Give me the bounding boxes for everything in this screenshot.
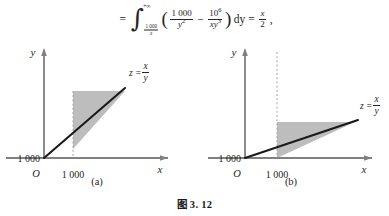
integral-upper-limit: +∞ bbox=[143, 2, 151, 8]
curve-label-a: z = x y bbox=[129, 62, 150, 84]
close-paren: ) bbox=[225, 11, 231, 27]
shaded-region-b bbox=[277, 122, 355, 158]
differential-text: dy bbox=[234, 13, 246, 25]
open-paren: ( bbox=[162, 11, 168, 27]
curve-label-lhs-a: z = bbox=[129, 68, 141, 78]
trailing-comma: , bbox=[270, 13, 273, 25]
chart-panel-b: 1 000 1 000 O y x z = x y bbox=[194, 36, 388, 196]
term1-denominator: y2 bbox=[177, 20, 186, 29]
panel-label-b: (b) bbox=[194, 176, 388, 187]
x-axis-arrow-a bbox=[160, 155, 168, 161]
integral-lower-limit: 1 000 x bbox=[143, 23, 160, 36]
curve-label-num-a: x bbox=[142, 62, 148, 72]
chart-panel-a: 1 000 1 000 O y x z = x y bbox=[0, 36, 194, 196]
y-axis-arrow-a bbox=[41, 48, 47, 56]
term1-den-exponent: 2 bbox=[182, 17, 185, 24]
leading-equals: = bbox=[119, 13, 126, 25]
x-axis-arrow-b bbox=[364, 155, 372, 161]
y-axis-arrow-b bbox=[242, 48, 248, 56]
curve-label-den-a: y bbox=[142, 74, 148, 84]
curve-label-num-b: x bbox=[373, 95, 379, 105]
result-numerator: x bbox=[259, 9, 265, 18]
minus-sign: − bbox=[197, 13, 204, 25]
y-axis-label-a: y bbox=[30, 46, 36, 58]
figure-caption: 图 3. 12 bbox=[0, 196, 389, 211]
x-axis-label-a: x bbox=[157, 163, 163, 175]
shaded-region-a bbox=[73, 91, 125, 149]
integrand-term-2: 106 xy3 bbox=[208, 9, 222, 30]
x-axis-label-b: x bbox=[361, 163, 367, 175]
term2-den-exponent: 3 bbox=[218, 17, 221, 24]
curve-label-den-b: y bbox=[373, 107, 379, 117]
panel-label-a: (a) bbox=[0, 176, 194, 187]
result-equals: = bbox=[248, 13, 255, 25]
result-fraction: x 2 bbox=[259, 9, 266, 30]
integral-limits: +∞ 1 000 x bbox=[143, 6, 160, 32]
curve-label-b: z = x y bbox=[360, 95, 381, 117]
integrand-term-1: 1 000 y2 bbox=[170, 9, 192, 30]
y-tick-label-b: 1 000 bbox=[219, 153, 242, 164]
figure-root: = ∫ +∞ 1 000 x ( 1 000 bbox=[0, 0, 389, 216]
y-axis-label-b: y bbox=[231, 46, 237, 58]
result-denominator: 2 bbox=[259, 20, 266, 29]
term2-num-exponent: 6 bbox=[218, 6, 221, 13]
differential-dy: dy bbox=[234, 13, 246, 25]
curve-label-fraction-a: x y bbox=[142, 62, 148, 84]
curve-label-lhs-b: z = bbox=[360, 101, 372, 111]
integral-operator: ∫ +∞ 1 000 x bbox=[131, 6, 160, 32]
integral-equation: = ∫ +∞ 1 000 x ( 1 000 bbox=[116, 6, 272, 32]
curve-label-fraction-b: x y bbox=[373, 95, 379, 117]
term2-denominator: xy3 bbox=[209, 20, 222, 29]
chart-b-svg: 1 000 1 000 O y x bbox=[194, 36, 388, 196]
term2-den-base: xy bbox=[210, 19, 218, 29]
chart-a-svg: 1 000 1 000 O y x bbox=[0, 36, 194, 196]
lower-limit-numerator: 1 000 bbox=[144, 23, 158, 28]
lower-limit-fraction: 1 000 x bbox=[144, 23, 158, 36]
formula-row: = ∫ +∞ 1 000 x ( 1 000 bbox=[0, 2, 389, 36]
y-tick-label-a: 1 000 bbox=[18, 153, 41, 164]
